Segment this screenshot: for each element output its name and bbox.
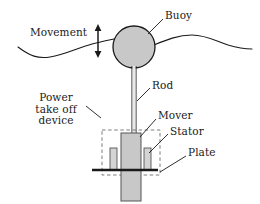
buoy-leader-line [148, 19, 163, 34]
label-movement: Movement [30, 27, 87, 39]
label-rod: Rod [152, 80, 173, 92]
sea-surface-wave-right [154, 35, 252, 49]
label-mover: Mover [158, 110, 193, 122]
mover-shape [121, 133, 141, 201]
stator-leader-line [149, 134, 168, 153]
sea-surface-wave-left [18, 39, 114, 58]
stator-left-shape [110, 148, 117, 170]
label-stator: Stator [170, 126, 204, 138]
rod-shape [132, 66, 136, 135]
plate-leader-line [160, 156, 186, 172]
movement-arrow [95, 24, 102, 58]
label-buoy: Buoy [165, 10, 192, 22]
mover-leader-line [140, 119, 156, 137]
buoy-shape [113, 26, 155, 68]
rod-leader-line [137, 88, 150, 101]
label-power-take-off-device: Power take off device [26, 92, 86, 127]
wave-energy-converter-diagram: Movement Buoy Rod Power take off device … [0, 0, 260, 204]
stator-right-shape [144, 148, 151, 170]
label-plate: Plate [188, 147, 216, 159]
power-take-off-leader-line [86, 106, 101, 118]
